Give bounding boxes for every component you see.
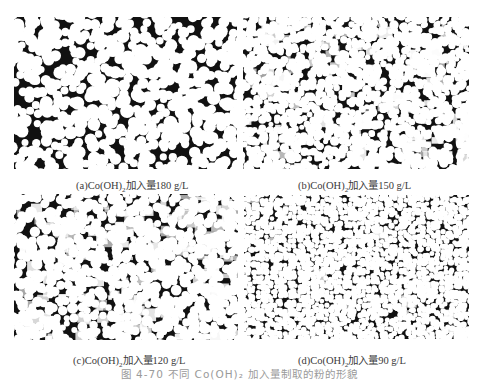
particle bbox=[453, 250, 460, 257]
bright-patch bbox=[108, 295, 112, 300]
particle bbox=[113, 272, 122, 281]
micrograph-c bbox=[14, 194, 238, 340]
particle bbox=[438, 274, 444, 280]
particle bbox=[325, 297, 330, 302]
particle bbox=[270, 233, 275, 238]
particle bbox=[268, 122, 273, 127]
bright-patch bbox=[178, 326, 185, 332]
micrograph-d bbox=[244, 195, 469, 339]
particle bbox=[302, 219, 307, 224]
particle bbox=[298, 23, 305, 30]
bright-patch bbox=[119, 311, 124, 324]
bright-patch bbox=[287, 59, 297, 64]
bright-patch bbox=[204, 325, 218, 329]
bright-patch bbox=[193, 276, 206, 286]
particle bbox=[258, 116, 266, 124]
particle bbox=[381, 86, 387, 92]
bright-patch bbox=[405, 104, 416, 113]
particle bbox=[248, 281, 253, 286]
bright-patch bbox=[222, 199, 233, 211]
particle bbox=[156, 331, 164, 339]
particle bbox=[47, 240, 53, 246]
bright-patch bbox=[291, 165, 296, 169]
particle bbox=[307, 112, 313, 118]
bright-patch bbox=[199, 307, 204, 313]
particle bbox=[222, 83, 234, 95]
particle bbox=[148, 139, 159, 150]
bright-patch bbox=[134, 295, 149, 304]
bright-patch bbox=[198, 255, 211, 259]
bright-patch bbox=[294, 163, 305, 169]
particle bbox=[399, 243, 403, 247]
bright-patch bbox=[460, 65, 464, 74]
particle bbox=[441, 95, 446, 100]
particle bbox=[328, 223, 333, 228]
caption-b-suffix: 加入量150 g/L bbox=[348, 180, 411, 191]
particle bbox=[370, 315, 376, 321]
particle bbox=[263, 213, 270, 220]
bright-patch bbox=[226, 318, 234, 324]
particle bbox=[366, 302, 372, 308]
particle bbox=[295, 116, 303, 124]
particle bbox=[215, 39, 223, 47]
particle bbox=[228, 70, 236, 78]
bright-patch bbox=[115, 241, 129, 248]
bright-patch bbox=[139, 231, 143, 241]
bright-patch bbox=[236, 262, 238, 273]
bright-patch bbox=[181, 202, 189, 211]
bright-patch bbox=[144, 209, 154, 216]
particle bbox=[164, 325, 171, 332]
bright-patch bbox=[432, 75, 446, 87]
particle bbox=[322, 261, 329, 268]
particle bbox=[416, 82, 423, 89]
particle bbox=[280, 61, 286, 67]
particle bbox=[160, 153, 167, 160]
bright-patch bbox=[277, 73, 291, 85]
particle bbox=[439, 265, 444, 270]
particle bbox=[436, 21, 441, 26]
bright-patch bbox=[25, 301, 34, 309]
bright-patch bbox=[447, 22, 457, 25]
particle bbox=[425, 196, 430, 201]
particle bbox=[409, 119, 416, 126]
particle bbox=[193, 38, 205, 50]
micrograph-d-image bbox=[244, 195, 469, 339]
bright-patch bbox=[146, 223, 153, 233]
caption-d-prefix: (d)Co(OH) bbox=[298, 355, 345, 366]
bright-patch bbox=[220, 252, 226, 258]
particle bbox=[375, 335, 379, 339]
bright-patch bbox=[309, 29, 323, 36]
particle bbox=[294, 47, 299, 52]
bright-patch bbox=[233, 226, 236, 230]
bright-patch bbox=[122, 288, 128, 297]
bright-patch bbox=[441, 327, 455, 334]
particle bbox=[147, 68, 160, 81]
particle bbox=[283, 255, 288, 260]
bright-patch bbox=[71, 195, 84, 199]
bright-patch bbox=[342, 78, 353, 91]
particle bbox=[97, 54, 107, 64]
bright-patch bbox=[165, 217, 169, 222]
bright-patch bbox=[423, 113, 431, 124]
bright-patch bbox=[148, 239, 151, 252]
particle bbox=[69, 84, 77, 92]
bright-patch bbox=[336, 69, 347, 73]
particle bbox=[80, 228, 86, 234]
particle bbox=[359, 199, 366, 206]
particle bbox=[374, 211, 378, 215]
bright-patch bbox=[395, 75, 400, 80]
bright-patch bbox=[53, 326, 61, 333]
bright-patch bbox=[216, 205, 222, 214]
particle bbox=[399, 57, 404, 62]
bright-patch bbox=[258, 88, 261, 96]
bright-patch bbox=[460, 108, 469, 120]
bright-patch bbox=[178, 195, 192, 199]
bright-patch bbox=[115, 222, 126, 232]
particle bbox=[259, 330, 264, 335]
particle bbox=[256, 225, 261, 230]
particle bbox=[341, 243, 346, 248]
particle bbox=[267, 306, 273, 312]
particle bbox=[52, 127, 65, 140]
bright-patch bbox=[43, 271, 56, 284]
particle bbox=[346, 274, 352, 280]
